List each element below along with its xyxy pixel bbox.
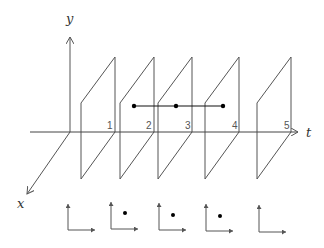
snapshot-3	[159, 203, 186, 230]
point-t2	[132, 104, 136, 108]
tick-3: 3	[185, 120, 191, 131]
snapshot-5	[259, 205, 286, 232]
t-axis: t	[30, 125, 312, 140]
tick-labels: 1 2 3 4 5	[107, 120, 290, 131]
x-axis: x	[17, 132, 70, 211]
snapshot-1	[68, 204, 95, 230]
spacetime-diagram: y x	[0, 0, 324, 248]
tick-4: 4	[232, 120, 238, 131]
plane-3	[158, 57, 192, 179]
x-axis-label: x	[17, 196, 25, 211]
snapshot-4	[206, 204, 233, 231]
snapshots	[68, 202, 286, 232]
diagram-svg: y x	[0, 0, 324, 248]
time-planes	[81, 57, 291, 179]
plane-5	[257, 57, 291, 179]
snapshot-2	[111, 202, 138, 229]
trajectory	[132, 104, 225, 108]
t-axis-label: t	[306, 125, 312, 140]
tick-1: 1	[107, 120, 113, 131]
y-axis: y	[65, 11, 74, 132]
plane-1	[81, 57, 115, 179]
plane-4	[205, 57, 239, 179]
y-axis-label: y	[65, 11, 74, 26]
tick-5: 5	[284, 120, 290, 131]
tick-2: 2	[146, 120, 152, 131]
plane-2	[120, 57, 154, 179]
point-t3	[174, 104, 178, 108]
point-t4	[221, 104, 225, 108]
